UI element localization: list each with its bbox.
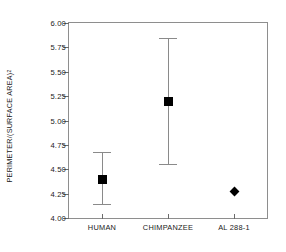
data-marker-square — [98, 175, 107, 184]
y-tick-label: 6.00 — [50, 19, 66, 28]
y-tick-label: 5.50 — [50, 67, 66, 76]
y-axis-title: PERIMETER/(SURFACE AREA)2 — [0, 0, 18, 252]
data-marker-square — [164, 97, 173, 106]
x-tick-mark — [102, 214, 103, 219]
y-tick-label: 5.75 — [50, 43, 66, 52]
x-tick-mark — [234, 214, 235, 219]
y-tick-label: 4.75 — [50, 140, 66, 149]
y-tick-label: 5.25 — [50, 92, 66, 101]
y-tick-label: 4.25 — [50, 189, 66, 198]
x-tick-label: HUMAN — [88, 223, 116, 232]
error-bar-cap-lower — [159, 164, 177, 165]
x-tick-mark — [168, 214, 169, 219]
error-bar-cap-upper — [93, 152, 111, 153]
data-marker-diamond — [229, 187, 239, 197]
chart-figure: PERIMETER/(SURFACE AREA)2 4.004.254.504.… — [0, 0, 286, 252]
y-axis-title-text: PERIMETER/(SURFACE AREA) — [5, 73, 14, 183]
plot-area: 4.004.254.504.755.005.255.505.756.00 HUM… — [68, 22, 268, 219]
y-tick-label: 4.50 — [50, 165, 66, 174]
x-tick-label: CHIMPANZEE — [143, 223, 193, 232]
error-bar-cap-upper — [159, 38, 177, 39]
y-tick-label: 4.00 — [50, 214, 66, 223]
y-tick-label: 5.00 — [50, 116, 66, 125]
x-tick-label: AL 288-1 — [218, 223, 250, 232]
error-bar-cap-lower — [93, 204, 111, 205]
